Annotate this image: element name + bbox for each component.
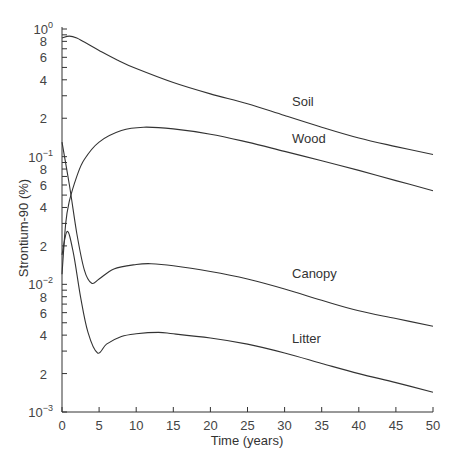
- x-tick-label: 35: [314, 418, 328, 433]
- x-tick-label: 10: [129, 418, 143, 433]
- y-axis-ticks: 100246810−1246810−2246810−3: [28, 20, 67, 420]
- curve-soil: [62, 36, 433, 154]
- series-labels: SoilWoodCanopyLitter: [292, 94, 337, 346]
- series-curves: [62, 36, 433, 392]
- y-tick-label-minor: 6: [40, 50, 47, 65]
- y-axis-label: Strontium-90 (%): [16, 179, 31, 277]
- x-tick-label: 30: [277, 418, 291, 433]
- y-tick-label-minor: 4: [40, 328, 47, 343]
- x-tick-label: 25: [240, 418, 254, 433]
- axis-lines: [62, 27, 433, 412]
- y-tick-label-minor: 2: [40, 111, 47, 126]
- x-tick-label: 45: [389, 418, 403, 433]
- x-tick-label: 15: [166, 418, 180, 433]
- axes: [62, 27, 433, 412]
- y-tick-label-decade: 10−3: [28, 403, 53, 420]
- y-tick-label-minor: 2: [40, 239, 47, 254]
- series-label-soil: Soil: [292, 94, 314, 109]
- y-tick-label-minor: 6: [40, 178, 47, 193]
- x-tick-label: 40: [352, 418, 366, 433]
- series-label-wood: Wood: [292, 131, 326, 146]
- strontium-chart: 100246810−1246810−2246810−3 051015202530…: [0, 0, 460, 473]
- x-tick-label: 5: [95, 418, 102, 433]
- x-tick-label: 0: [58, 418, 65, 433]
- x-axis-label: Time (years): [211, 433, 283, 448]
- y-tick-label-minor: 4: [40, 200, 47, 215]
- y-tick-label-minor: 8: [40, 290, 47, 305]
- y-tick-label-minor: 8: [40, 34, 47, 49]
- series-label-canopy: Canopy: [292, 266, 337, 281]
- y-tick-label-minor: 6: [40, 306, 47, 321]
- curve-litter: [62, 231, 433, 392]
- x-tick-label: 20: [203, 418, 217, 433]
- curve-wood: [62, 127, 433, 274]
- series-label-litter: Litter: [292, 331, 322, 346]
- y-tick-label-minor: 4: [40, 73, 47, 88]
- curve-canopy: [62, 142, 433, 326]
- x-axis-ticks: 05101520253035404550: [58, 407, 440, 433]
- y-tick-label-minor: 2: [40, 367, 47, 382]
- y-tick-label-minor: 8: [40, 162, 47, 177]
- x-tick-label: 50: [426, 418, 440, 433]
